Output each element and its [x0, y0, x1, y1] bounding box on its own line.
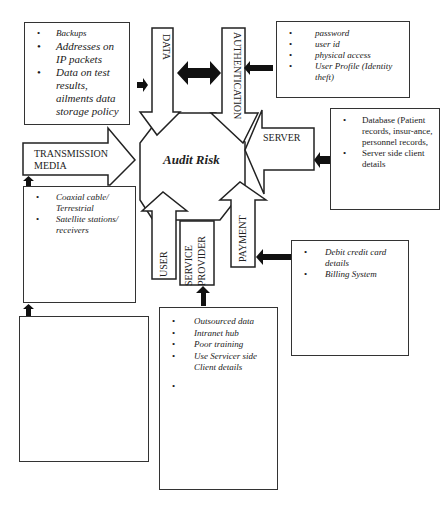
data-arrow: [140, 28, 180, 135]
audit-risk-label: Audit Risk: [163, 152, 220, 168]
data-details-box: Backups Addresses on IP packets Data on …: [24, 22, 130, 125]
service-provider-label-line2: PROVIDER: [196, 236, 207, 286]
list-item: Outsourced data: [160, 316, 275, 328]
user-arrow-label: USER: [158, 251, 169, 277]
service-provider-details-box: Outsourced data Intranet hub Poor traini…: [159, 307, 278, 490]
list-item: Use Servicer side Client details: [160, 351, 275, 374]
server-arrow-label: SERVER: [263, 132, 301, 143]
list-item: Poor training: [160, 339, 275, 351]
list-item: Addresses on IP packets: [25, 40, 125, 66]
payment-arrow-label: PAYMENT: [237, 216, 248, 263]
list-item: physical access: [277, 50, 405, 61]
list-item: Debit credit card details: [292, 247, 406, 269]
authentication-arrow-label: AUTHENTICATION: [232, 32, 243, 119]
arrow-left-icon: [256, 249, 291, 265]
list-item: [160, 381, 275, 392]
server-arrow: [245, 110, 314, 194]
arrow-left-icon: [244, 61, 273, 75]
list-item: User Profile (Identity theft): [277, 61, 405, 83]
list-item: Backups: [25, 27, 125, 40]
list-item: Billing System: [292, 269, 406, 280]
transmission-details-box: Coaxial cable/ Terrestrial Satellite sta…: [23, 186, 136, 303]
arrow-up-icon: [23, 304, 34, 316]
list-item: password: [277, 28, 405, 39]
list-item: Coaxial cable/ Terrestrial: [24, 192, 133, 214]
list-item: Data on test results, ailments data stor…: [25, 66, 125, 118]
transmission-label-line1: TRANSMISSION: [34, 148, 108, 159]
server-details-box: Database (Patient records, insur-ance, p…: [330, 108, 440, 210]
payment-details-box: Debit credit card details Billing System: [291, 240, 409, 356]
list-item: Database (Patient records, insur-ance, p…: [331, 115, 437, 148]
authentication-details-box: password user id physical access User Pr…: [276, 21, 410, 98]
arrow-up-icon: [196, 286, 210, 306]
arrow-up-icon: [23, 176, 34, 186]
service-provider-label-line1: SERVICE: [183, 245, 194, 286]
list-item: Server side client details: [331, 148, 437, 170]
user-details-box: [19, 316, 149, 462]
double-arrow-icon: [177, 61, 221, 85]
list-item: Satellite stations/ receivers: [24, 214, 133, 236]
data-arrow-label: DATA: [161, 34, 172, 60]
list-item: Intranet hub: [160, 328, 275, 340]
arrow-left-icon: [314, 152, 330, 168]
transmission-label-line2: MEDIA: [34, 160, 67, 171]
list-item: user id: [277, 39, 405, 50]
arrow-right-icon: [137, 78, 148, 92]
